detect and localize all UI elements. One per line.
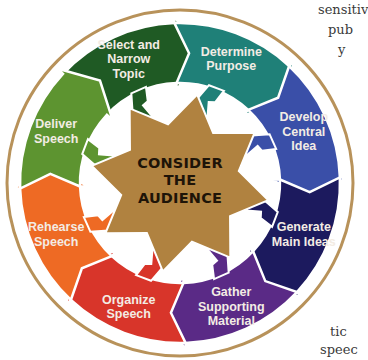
segment-label-line: Material xyxy=(208,314,255,328)
center-label-line: CONSIDER xyxy=(137,155,223,171)
segment-label-line: Determine xyxy=(201,45,262,59)
side-text-line: sensitiv xyxy=(318,0,368,20)
side-text-line: y xyxy=(318,40,368,60)
segment-label-generate-main-ideas: GenerateMain Ideas xyxy=(272,220,336,249)
segment-label-determine-purpose: DeterminePurpose xyxy=(201,45,262,74)
side-text-line: speec xyxy=(320,341,358,359)
segment-label-line: Supporting xyxy=(198,300,265,314)
side-text-line: pub xyxy=(318,20,368,40)
segment-label-organize-speech: OrganizeSpeech xyxy=(102,293,156,322)
segment-label-line: Deliver xyxy=(35,117,77,131)
segment-label-line: Generate xyxy=(277,220,331,234)
center-label-line: THE xyxy=(164,172,197,188)
segment-label-line: Select and xyxy=(97,38,160,52)
segment-label-line: Organize xyxy=(102,293,156,307)
segment-label-rehearse-speech: RehearseSpeech xyxy=(28,220,84,249)
side-text-bottom-right: tic speec xyxy=(320,323,358,359)
segment-label-line: Speech xyxy=(34,235,78,249)
segment-label-line: Central xyxy=(282,125,325,139)
side-text-line: tic xyxy=(320,323,358,341)
side-text-top-right: sensitiv pub y xyxy=(318,0,368,60)
center-label-line: AUDIENCE xyxy=(138,190,222,206)
segment-label-deliver-speech: DeliverSpeech xyxy=(34,117,78,146)
segment-label-line: Speech xyxy=(106,307,150,321)
segment-label-line: Purpose xyxy=(206,59,256,73)
segment-label-line: Rehearse xyxy=(28,220,84,234)
segment-label-line: Gather xyxy=(211,285,251,299)
segment-label-line: Topic xyxy=(113,67,145,81)
segment-label-line: Speech xyxy=(34,132,78,146)
segment-label-line: Narrow xyxy=(107,52,150,66)
segment-label-line: Idea xyxy=(291,139,317,153)
segment-label-line: Main Ideas xyxy=(272,235,336,249)
segment-label-line: Develop xyxy=(279,110,328,124)
